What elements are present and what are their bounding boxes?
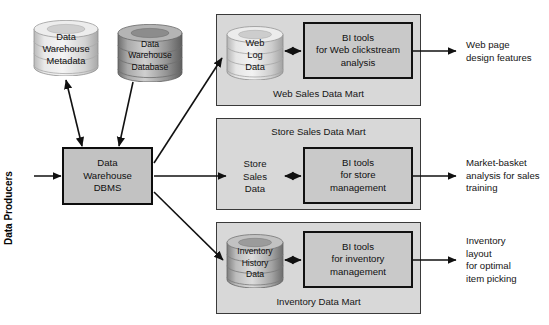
store-sales-data-label: Store Sales Data [226, 158, 284, 196]
cylinder-label-line1: Data [117, 39, 183, 50]
cylinder-label-line3: Data [226, 61, 284, 73]
output-line2: layout [466, 248, 549, 261]
bi-label-line1: BI tools [330, 241, 386, 254]
bi-label-line1: BI tools [330, 157, 386, 170]
cylinder-label-line2: Log [226, 49, 284, 61]
store-label-line3: Data [226, 183, 284, 196]
connector-warehouse-db-to-dbms [119, 82, 133, 146]
store-label-line1: Store [226, 158, 284, 171]
bi-tools-box-web[interactable]: BI tools for Web clickstream analysis [303, 22, 413, 79]
output-line2: analysis for sales [466, 170, 549, 183]
data-producers-label: Data Producers [3, 171, 14, 245]
dbms-label-line3: DBMS [83, 182, 132, 194]
bi-label-line2: for store [330, 169, 386, 182]
mart-title-store-sales: Store Sales Data Mart [217, 126, 420, 137]
bi-label-line2: for Web clickstream [316, 44, 400, 57]
cylinder-label-line2: Warehouse [117, 50, 183, 61]
output-line4: item picking [466, 273, 549, 286]
cylinder-inventory-history-data: Inventory History Data [226, 234, 284, 288]
output-text-web: Web page design features [466, 39, 549, 64]
cylinder-web-log-data: Web Log Data [226, 26, 284, 80]
mart-title-web-sales: Web Sales Data Mart [217, 88, 420, 99]
cylinder-data-warehouse-metadata: Data Warehouse Metadata [33, 20, 99, 76]
cylinder-label-line1: Data [33, 31, 99, 43]
connector-dbms-to-metadata [66, 80, 82, 146]
output-line3: training [466, 182, 549, 195]
bi-label-line2: for inventory [330, 253, 386, 266]
cylinder-label-line1: Inventory [226, 246, 284, 257]
output-line1: Inventory [466, 235, 549, 248]
cylinder-label-line3: Database [117, 62, 183, 73]
bi-label-line3: management [330, 266, 386, 279]
output-line3: for optimal [466, 260, 549, 273]
bi-tools-box-store[interactable]: BI tools for store management [303, 147, 413, 204]
output-line2: design features [466, 52, 549, 65]
bi-label-line3: management [330, 182, 386, 195]
mart-title-inventory: Inventory Data Mart [217, 296, 420, 307]
dbms-label-line2: Warehouse [83, 170, 132, 182]
data-warehouse-dbms-box[interactable]: Data Warehouse DBMS [62, 147, 153, 205]
output-text-inventory: Inventory layout for optimal item pickin… [466, 235, 549, 285]
cylinder-label-line3: Metadata [33, 55, 99, 67]
bi-label-line3: analysis [316, 57, 400, 70]
bi-tools-box-inventory[interactable]: BI tools for inventory management [303, 231, 413, 288]
cylinder-label-line2: History [226, 257, 284, 268]
bi-label-line1: BI tools [316, 32, 400, 45]
cylinder-label-line2: Warehouse [33, 43, 99, 55]
output-text-store: Market-basket analysis for sales trainin… [466, 157, 549, 195]
cylinder-label-line1: Web [226, 37, 284, 49]
cylinder-data-warehouse-database: Data Warehouse Database [117, 24, 183, 82]
output-line1: Market-basket [466, 157, 549, 170]
diagram-canvas: Data Producers Data Warehouse M [0, 0, 549, 325]
cylinder-label-line3: Data [226, 269, 284, 280]
connector-dbms-to-inventory-mart [154, 192, 223, 260]
dbms-label-line1: Data [83, 157, 132, 169]
output-line1: Web page [466, 39, 549, 52]
store-label-line2: Sales [226, 171, 284, 184]
